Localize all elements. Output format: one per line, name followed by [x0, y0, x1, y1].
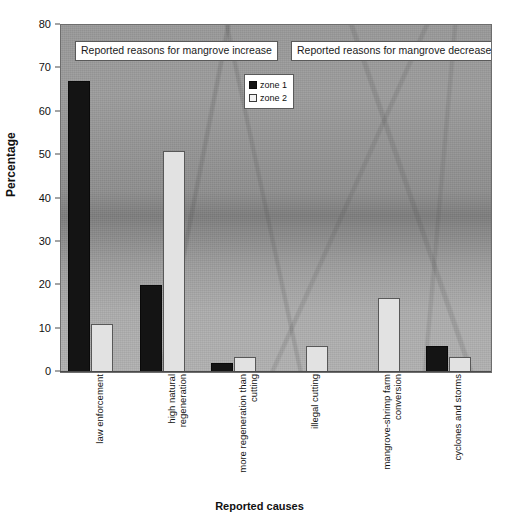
x-category-label-1: high natural regeneration — [166, 374, 188, 494]
bar-zone-1-cat-0 — [68, 81, 90, 372]
y-tick-label-0: 0 — [45, 365, 51, 377]
bar-zone-1-cat-5 — [426, 346, 448, 372]
annotation-mangrove-increase: Reported reasons for mangrove increase — [75, 41, 278, 61]
x-axis-line — [60, 371, 491, 372]
y-tick-label-40: 40 — [39, 192, 51, 204]
annotation-mangrove-decrease: Reported reasons for mangrove decrease — [291, 41, 492, 61]
y-tick-label-20: 20 — [39, 278, 51, 290]
bar-zone-1-cat-1 — [140, 285, 162, 372]
x-axis-title: Reported causes — [0, 500, 519, 512]
bar-zone-2-cat-4 — [378, 298, 400, 372]
x-category-label-3: illegal cutting — [309, 374, 320, 494]
y-tick-label-50: 50 — [39, 148, 51, 160]
legend-label-zone-2: zone 2 — [260, 93, 287, 103]
legend-swatch-zone-1-icon — [249, 81, 257, 89]
chart-figure: Percentage 01020304050607080 Reported re… — [0, 0, 519, 525]
bar-zone-2-cat-3 — [306, 346, 328, 372]
y-axis-ticks: 01020304050607080 — [0, 0, 60, 525]
y-tick-label-60: 60 — [39, 105, 51, 117]
legend-swatch-zone-2-icon — [249, 94, 257, 102]
y-tick-label-70: 70 — [39, 61, 51, 73]
legend-item-zone-2: zone 2 — [249, 92, 287, 104]
x-axis-category-labels: law enforcementhigh natural regeneration… — [60, 374, 490, 494]
plot-area: Reported reasons for mangrove increase R… — [60, 24, 492, 373]
bar-zone-2-cat-5 — [449, 357, 471, 372]
legend-label-zone-1: zone 1 — [260, 80, 287, 90]
y-tick-label-80: 80 — [39, 18, 51, 30]
x-category-label-0: law enforcement — [94, 374, 105, 494]
x-category-label-4: mangrove-shrimp farm conversion — [381, 374, 403, 494]
chart-legend: zone 1 zone 2 — [244, 74, 294, 109]
bar-zone-2-cat-2 — [234, 357, 256, 372]
x-category-label-2: more regeneration than cutting — [237, 374, 259, 494]
bar-zone-2-cat-0 — [91, 324, 113, 372]
y-tick-label-10: 10 — [39, 322, 51, 334]
y-tick-label-30: 30 — [39, 235, 51, 247]
x-category-label-5: cyclones and storms — [452, 374, 463, 494]
bar-zone-2-cat-1 — [163, 151, 185, 372]
legend-item-zone-1: zone 1 — [249, 79, 287, 91]
